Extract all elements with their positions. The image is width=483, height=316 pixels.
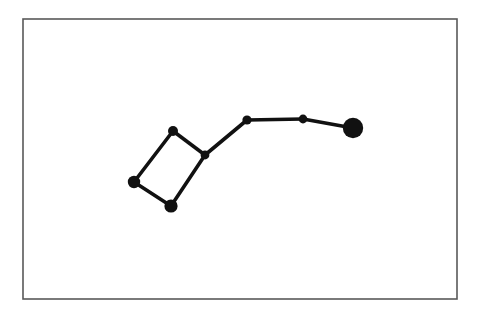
border-frame bbox=[23, 19, 457, 299]
star-node-bowl-handle-junction bbox=[201, 151, 210, 160]
star-node-left-bowl-star bbox=[128, 176, 140, 188]
constellation-figure bbox=[0, 0, 483, 316]
star-node-top-bowl-star bbox=[168, 126, 178, 136]
star-node-handle-star-middle bbox=[299, 115, 308, 124]
star-node-bottom-bowl-star bbox=[164, 199, 177, 212]
star-link-handle-star-inner-to-handle-star-middle bbox=[247, 119, 303, 120]
constellation-canvas bbox=[0, 0, 483, 316]
star-node-handle-star-inner bbox=[242, 115, 251, 124]
star-node-handle-end-star bbox=[343, 118, 363, 138]
